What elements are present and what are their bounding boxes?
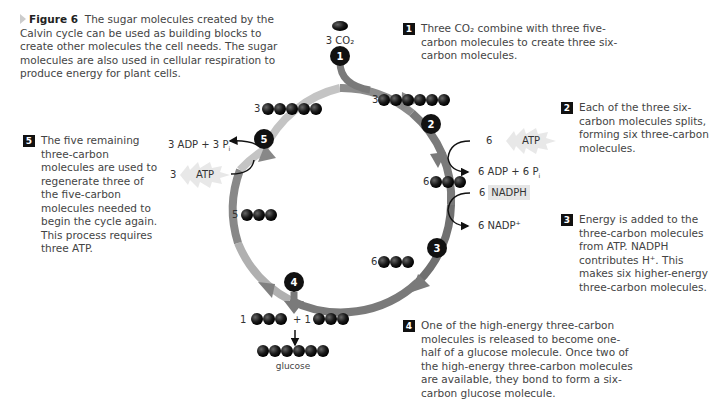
three-carbon-molecules-split: 6 (423, 176, 466, 188)
glucose-label: glucose (276, 361, 311, 371)
marker-3: 3 (427, 238, 447, 258)
three-carbon-molecules-high-energy: 6 (371, 256, 414, 268)
glucose-molecule (257, 345, 329, 357)
svg-text:6 ADP + 6 Pi: 6 ADP + 6 Pi (478, 166, 540, 179)
marker-2: 2 (421, 114, 441, 134)
marker-4: 4 (284, 272, 304, 292)
svg-text:1: 1 (337, 51, 344, 62)
marker-5: 5 (254, 129, 274, 149)
svg-text:ATP: ATP (196, 169, 214, 180)
svg-text:ATP: ATP (522, 135, 540, 146)
step-3-nadph-reaction: 6 NADPH 6 NADP⁺ (448, 185, 530, 231)
three-carbon-molecules-remaining: 5 (232, 209, 277, 221)
svg-text:+ 1: + 1 (293, 314, 311, 325)
svg-text:6: 6 (486, 135, 492, 146)
step-4-glucose-output: 1 + 1 glucose (240, 292, 349, 371)
svg-text:2: 2 (428, 119, 435, 130)
svg-text:4: 4 (291, 277, 298, 288)
svg-text:3: 3 (254, 103, 260, 114)
co2-label: 3 CO₂ (326, 35, 354, 46)
svg-text:6: 6 (479, 187, 485, 198)
five-carbon-molecules: 3 (254, 103, 322, 115)
svg-text:3: 3 (170, 169, 176, 180)
svg-text:6 NADP⁺: 6 NADP⁺ (478, 220, 521, 231)
svg-text:NADPH: NADPH (491, 187, 527, 198)
six-carbon-molecules: 3 (372, 94, 450, 106)
step-2-atp-reaction: 6 ATP 6 ADP + 6 Pi (448, 128, 556, 179)
svg-text:5: 5 (261, 134, 268, 145)
svg-text:3 ADP + 3 Pi: 3 ADP + 3 Pi (168, 139, 230, 152)
svg-text:5: 5 (232, 209, 238, 220)
svg-text:3: 3 (372, 94, 378, 105)
calvin-cycle-diagram: 3 CO₂ 1 2 3 4 5 3 6 6 5 3 6 ATP 6 (0, 0, 716, 409)
svg-text:6: 6 (423, 176, 429, 187)
svg-text:6: 6 (371, 256, 377, 267)
marker-1: 1 (330, 46, 350, 66)
co2-molecule-icon (332, 21, 348, 31)
svg-text:1: 1 (240, 314, 246, 325)
svg-text:3: 3 (434, 243, 441, 254)
